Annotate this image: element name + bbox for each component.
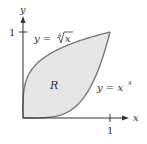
upper-eq-radicand: x [65,33,71,44]
upper-eq-lhs: y = [33,33,51,44]
y-tick-label: 1 [9,27,15,38]
lower-curve-equation: y = x 4 [96,80,132,93]
x-tick-label: 1 [107,125,113,136]
shaded-region-r [23,32,110,118]
x-axis-label: x [133,112,139,123]
y-axis-label: y [19,4,26,15]
x-axis-arrow-icon [122,116,129,121]
y-axis-arrow-icon [21,16,26,23]
lower-eq-lhs: y = x [96,82,123,93]
upper-curve-equation: y = 4 x [33,32,73,44]
region-diagram: y 1 x 1 y = 4 x y = x 4 R [0,0,147,144]
lower-eq-exponent: 4 [128,80,132,86]
region-label: R [49,79,58,92]
